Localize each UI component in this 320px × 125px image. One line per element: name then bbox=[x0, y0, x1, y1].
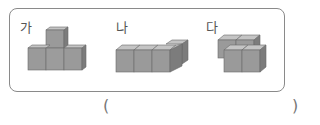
figure-label-na: 나 bbox=[116, 21, 128, 34]
answer-close-paren: ) bbox=[292, 98, 298, 114]
cube-figure-da bbox=[216, 32, 272, 82]
cube-figure-na bbox=[114, 38, 194, 78]
answer-blank[interactable] bbox=[115, 98, 290, 118]
answer-open-paren: ( bbox=[103, 98, 109, 114]
cube-figure-ga bbox=[24, 26, 88, 76]
